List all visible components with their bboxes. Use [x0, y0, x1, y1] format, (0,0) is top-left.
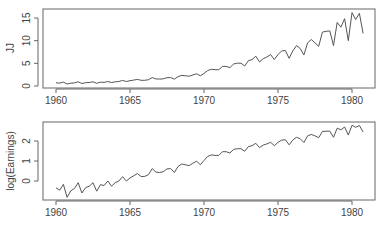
x-tick-label: 1970 — [193, 207, 216, 218]
jj-series-line — [56, 13, 363, 84]
y-axis: 012 — [21, 138, 38, 184]
plot-frame — [43, 122, 375, 200]
plot-frame — [43, 9, 375, 88]
y-axis: 051015 — [21, 12, 38, 89]
y-tick-label: 0 — [21, 178, 32, 184]
y-tick-label: 2 — [21, 138, 32, 144]
x-tick-label: 1960 — [45, 95, 68, 106]
y-axis-label: JJ — [5, 43, 16, 53]
x-axis: 19601965197019751980 — [45, 201, 364, 218]
x-tick-label: 1970 — [193, 95, 216, 106]
time-series-figure: 19601965197019751980 051015 JJ 196019651… — [0, 0, 387, 231]
y-tick-label: 1 — [21, 158, 32, 164]
x-tick-label: 1975 — [267, 207, 290, 218]
y-tick-label: 5 — [21, 60, 32, 66]
x-tick-label: 1980 — [341, 207, 364, 218]
x-tick-label: 1975 — [267, 95, 290, 106]
x-tick-label: 1965 — [119, 207, 142, 218]
x-tick-label: 1960 — [45, 207, 68, 218]
y-axis-label: log(Earnings) — [5, 131, 16, 190]
jj-panel: 19601965197019751980 051015 JJ — [5, 9, 375, 106]
y-tick-label: 0 — [21, 83, 32, 89]
log-earnings-panel: 19601965197019751980 012 log(Earnings) — [5, 122, 375, 218]
x-axis: 19601965197019751980 — [45, 89, 364, 106]
x-tick-label: 1965 — [119, 95, 142, 106]
y-tick-label: 10 — [21, 35, 32, 47]
y-tick-label: 15 — [21, 12, 32, 24]
log-earnings-series-line — [56, 125, 363, 197]
x-tick-label: 1980 — [341, 95, 364, 106]
